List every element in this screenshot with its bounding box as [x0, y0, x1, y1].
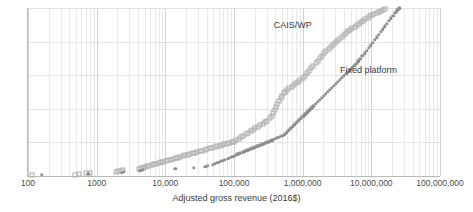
gridline-vertical	[404, 8, 405, 176]
data-point	[375, 36, 378, 39]
gridline-vertical	[155, 8, 156, 176]
data-point	[363, 52, 366, 55]
gridline-vertical	[69, 8, 70, 176]
gridline-vertical	[356, 8, 357, 176]
gridline-vertical	[61, 8, 62, 176]
gridline-vertical	[49, 8, 50, 176]
data-point	[361, 54, 364, 57]
gridline-vertical	[413, 8, 414, 176]
gridline-vertical	[267, 8, 268, 176]
gridline-vertical	[28, 8, 29, 176]
data-point	[30, 173, 35, 178]
data-point	[383, 25, 386, 28]
gridline-vertical	[138, 8, 139, 176]
gridline-vertical	[81, 8, 82, 176]
gridline-vertical	[97, 8, 98, 176]
gridline-vertical	[440, 8, 441, 176]
gridline-vertical	[76, 8, 77, 176]
gridline-vertical	[165, 8, 166, 176]
x-tick-label: 10,000	[152, 178, 178, 188]
series-annotation-label: Fixed platform	[340, 65, 397, 75]
gridline-vertical	[371, 8, 372, 176]
x-tick-label: 100,000,000	[416, 178, 463, 188]
gridline-vertical	[150, 8, 151, 176]
gridline-vertical	[429, 8, 430, 176]
data-point	[206, 164, 209, 167]
x-tick-label: 1000	[87, 178, 106, 188]
gridline-vertical	[213, 8, 214, 176]
gridline-vertical	[219, 8, 220, 176]
gridline-vertical	[351, 8, 352, 176]
gridline-vertical	[255, 8, 256, 176]
data-point	[122, 170, 125, 173]
data-point	[379, 30, 382, 33]
gridline-vertical	[223, 8, 224, 176]
data-point	[391, 14, 394, 17]
x-tick-label: 100,000	[219, 178, 250, 188]
gridline-vertical	[234, 8, 235, 176]
gridline-horizontal	[28, 109, 440, 110]
data-point	[367, 46, 370, 49]
gridline-vertical	[425, 8, 426, 176]
data-point	[383, 6, 388, 11]
data-point	[385, 22, 388, 25]
gridline-vertical	[303, 8, 304, 176]
x-tick-label: 10,000,000	[350, 178, 393, 188]
gridline-vertical	[368, 8, 369, 176]
gridline-vertical	[275, 8, 276, 176]
data-point	[357, 60, 360, 63]
data-point	[387, 19, 390, 22]
gridline-vertical	[296, 8, 297, 176]
x-tick-label: 100	[21, 178, 35, 188]
gridline-vertical	[392, 8, 393, 176]
gridline-vertical	[335, 8, 336, 176]
plot-area: 00.20.40.60.81 100100010,000100,0001,000…	[28, 8, 440, 176]
gridline-vertical	[419, 8, 420, 176]
data-point	[77, 171, 82, 176]
gridline-vertical	[300, 8, 301, 176]
series-annotation-label: CAIS/WP	[274, 20, 312, 30]
gridline-vertical	[129, 8, 130, 176]
gridline-vertical	[365, 8, 366, 176]
x-tick-label: 1,000,000	[284, 178, 322, 188]
chart-figure: 00.20.40.60.81 100100010,000100,0001,000…	[0, 0, 473, 212]
gridline-vertical	[159, 8, 160, 176]
gridline-horizontal	[28, 75, 440, 76]
gridline-vertical	[117, 8, 118, 176]
gridline-vertical	[437, 8, 438, 176]
x-axis-line	[27, 176, 440, 177]
gridline-vertical	[292, 8, 293, 176]
gridline-vertical	[227, 8, 228, 176]
data-point	[398, 7, 401, 10]
gridline-vertical	[86, 8, 87, 176]
data-point	[174, 167, 177, 170]
data-point	[371, 41, 374, 44]
gridline-horizontal	[28, 42, 440, 43]
data-point	[377, 33, 380, 36]
gridline-vertical	[145, 8, 146, 176]
data-point	[381, 27, 384, 30]
gridline-vertical	[162, 8, 163, 176]
x-axis-title: Adjusted gross revenue (2016$)	[0, 193, 473, 203]
gridline-vertical	[433, 8, 434, 176]
data-point	[393, 11, 396, 14]
data-point	[192, 166, 195, 169]
gridline-vertical	[94, 8, 95, 176]
gridline-vertical	[90, 8, 91, 176]
gridline-vertical	[231, 8, 232, 176]
gridline-vertical	[361, 8, 362, 176]
